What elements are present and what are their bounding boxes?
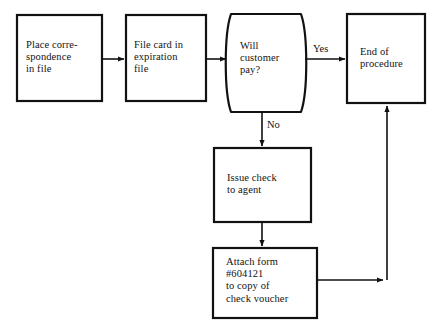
edge-label-yes: Yes	[313, 43, 328, 55]
node-label-end-of-procedure: End of procedure	[360, 46, 403, 70]
node-label-attach-form: Attach form #604121 to copy of check vou…	[226, 256, 288, 305]
node-label-will-customer-pay: Will customer pay?	[240, 40, 279, 77]
flowchart-diagram: Place corre- spondence in file File card…	[0, 0, 434, 336]
node-label-issue-check: Issue check to agent	[227, 172, 277, 196]
edge-label-no: No	[267, 119, 280, 131]
node-label-place-correspondence: Place corre- spondence in file	[26, 39, 78, 76]
node-label-file-card: File card in expiration file	[134, 39, 183, 76]
